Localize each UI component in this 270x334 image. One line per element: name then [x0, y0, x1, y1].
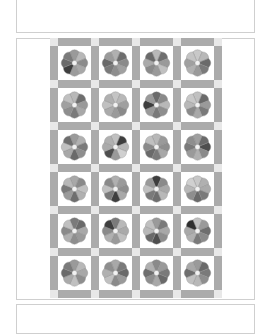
flower-block	[58, 256, 91, 290]
cornerstone	[50, 164, 58, 172]
cornerstone	[50, 122, 58, 130]
cornerstone	[91, 122, 99, 130]
cornerstone	[91, 38, 99, 46]
dresden-flower-icon	[59, 89, 90, 121]
flower-block	[181, 130, 214, 164]
cornerstone	[132, 206, 140, 214]
dresden-flower-icon	[59, 257, 90, 289]
flower-block	[58, 130, 91, 164]
flower-block	[58, 214, 91, 248]
quilt-image	[50, 38, 222, 298]
dresden-flower-icon	[141, 257, 172, 289]
flower-block	[140, 130, 173, 164]
dresden-flower-icon	[141, 173, 172, 205]
cornerstone	[173, 164, 181, 172]
dresden-flower-icon	[141, 89, 172, 121]
cornerstone	[50, 80, 58, 88]
flower-block	[99, 46, 132, 80]
dresden-flower-icon	[100, 89, 131, 121]
dresden-flower-icon	[141, 215, 172, 247]
cornerstone	[91, 164, 99, 172]
dresden-flower-icon	[182, 215, 213, 247]
cornerstone	[173, 206, 181, 214]
cornerstone	[132, 122, 140, 130]
dresden-flower-icon	[100, 257, 131, 289]
dresden-flower-icon	[59, 173, 90, 205]
flower-block	[99, 172, 132, 206]
flower-block	[58, 172, 91, 206]
cornerstone	[214, 122, 222, 130]
flower-block	[99, 214, 132, 248]
dresden-flower-icon	[100, 215, 131, 247]
cornerstone	[50, 38, 58, 46]
dresden-flower-icon	[182, 257, 213, 289]
flower-block	[181, 46, 214, 80]
dresden-flower-icon	[59, 131, 90, 163]
cornerstone	[173, 122, 181, 130]
cornerstone	[132, 290, 140, 298]
flower-block	[181, 88, 214, 122]
cornerstone	[173, 248, 181, 256]
cornerstone	[132, 80, 140, 88]
dresden-flower-icon	[182, 47, 213, 79]
flower-block	[181, 256, 214, 290]
cornerstone	[214, 164, 222, 172]
flower-block	[140, 88, 173, 122]
dresden-flower-icon	[100, 173, 131, 205]
dresden-flower-icon	[59, 47, 90, 79]
cornerstone	[214, 80, 222, 88]
flower-block	[58, 88, 91, 122]
dresden-flower-icon	[182, 131, 213, 163]
top-panel	[16, 0, 255, 33]
flower-block	[58, 46, 91, 80]
bottom-panel	[16, 304, 255, 334]
cornerstone	[132, 164, 140, 172]
cornerstone	[173, 38, 181, 46]
cornerstone	[50, 206, 58, 214]
dresden-flower-icon	[59, 215, 90, 247]
cornerstone	[132, 38, 140, 46]
flower-block	[140, 214, 173, 248]
cornerstone	[214, 206, 222, 214]
dresden-flower-icon	[100, 131, 131, 163]
dresden-flower-icon	[141, 131, 172, 163]
cornerstone	[173, 290, 181, 298]
cornerstone	[132, 248, 140, 256]
cornerstone	[50, 290, 58, 298]
cornerstone	[91, 206, 99, 214]
dresden-flower-icon	[182, 173, 213, 205]
dresden-flower-icon	[141, 47, 172, 79]
flower-block	[99, 88, 132, 122]
flower-block	[181, 214, 214, 248]
flower-block	[140, 46, 173, 80]
cornerstone	[173, 80, 181, 88]
flower-block	[99, 130, 132, 164]
cornerstone	[214, 38, 222, 46]
cornerstone	[214, 248, 222, 256]
cornerstone	[214, 290, 222, 298]
cornerstone	[91, 290, 99, 298]
dresden-flower-icon	[182, 89, 213, 121]
flower-block	[140, 256, 173, 290]
flower-block	[99, 256, 132, 290]
cornerstone	[50, 248, 58, 256]
flower-block	[181, 172, 214, 206]
cornerstone	[91, 248, 99, 256]
flower-block	[140, 172, 173, 206]
dresden-flower-icon	[100, 47, 131, 79]
cornerstone	[91, 80, 99, 88]
